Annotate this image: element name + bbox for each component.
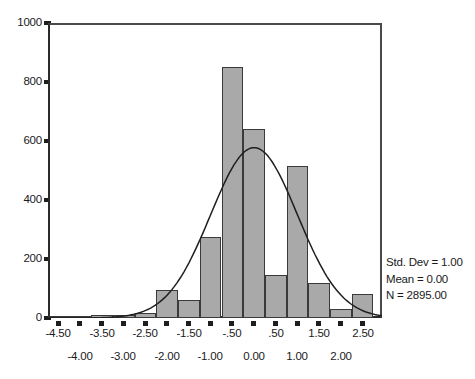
histogram-figure: 1000 800 600 400 200 0 [0, 0, 475, 379]
x-axis-tick-neg1-50 [186, 321, 191, 326]
std-dev-label: Std. Dev = 1.00 [386, 254, 475, 271]
x-axis-tick-2-00 [338, 321, 343, 326]
x-axis-label-neg0-50: -.50 [209, 327, 255, 339]
x-axis-label-2-00: 2.00 [318, 350, 364, 362]
x-axis-tick-neg2-50 [143, 321, 148, 326]
y-axis-label-600: 600 [2, 135, 42, 147]
x-axis-label-1-50: 1.50 [296, 327, 342, 339]
y-axis-label-200: 200 [2, 253, 42, 265]
normal-distribution-curve [48, 23, 382, 318]
x-axis-tick-neg3-50 [99, 321, 104, 326]
x-axis-label-neg2-50: -2.50 [122, 327, 168, 339]
x-axis-tick-1-50 [316, 321, 321, 326]
y-axis-label-400: 400 [2, 194, 42, 206]
x-axis-tick-neg1-00 [208, 321, 213, 326]
x-axis-label-neg3-00: -3.00 [100, 350, 146, 362]
y-axis-labels: 1000 800 600 400 200 0 [0, 0, 42, 379]
x-axis-label-2-50: 2.50 [340, 327, 386, 339]
mean-label: Mean = 0.00 [386, 271, 475, 288]
x-axis-tick-neg0-50 [229, 321, 234, 326]
x-axis-label-0-00: 0.00 [231, 350, 277, 362]
n-label: N = 2895.00 [386, 287, 475, 304]
x-axis-label-neg1-50: -1.50 [166, 327, 212, 339]
x-axis-label-1-00: 1.00 [274, 350, 320, 362]
x-axis-tick-neg4-50 [56, 321, 61, 326]
x-axis-label-neg2-00: -2.00 [144, 350, 190, 362]
x-axis-label-neg1-00: -1.00 [187, 350, 233, 362]
x-axis-tick-neg3-00 [121, 321, 126, 326]
x-axis-tick-2-50 [360, 321, 365, 326]
y-axis-label-800: 800 [2, 76, 42, 88]
x-axis-tick-0-00 [251, 321, 256, 326]
x-axis-tick-0-50 [273, 321, 278, 326]
y-axis-label-0: 0 [2, 312, 42, 324]
x-axis-label-neg4-00: -4.00 [57, 350, 103, 362]
x-axis-label-neg4-50: -4.50 [35, 327, 81, 339]
x-axis-label-0-50: .50 [253, 327, 299, 339]
x-axis-tick-1-00 [295, 321, 300, 326]
x-axis-tick-neg2-00 [164, 321, 169, 326]
y-axis-label-1000: 1000 [2, 17, 42, 29]
x-axis-label-neg3-50: -3.50 [79, 327, 125, 339]
statistics-annotation: Std. Dev = 1.00 Mean = 0.00 N = 2895.00 [386, 254, 475, 304]
x-axis-tick-neg4-00 [77, 321, 82, 326]
